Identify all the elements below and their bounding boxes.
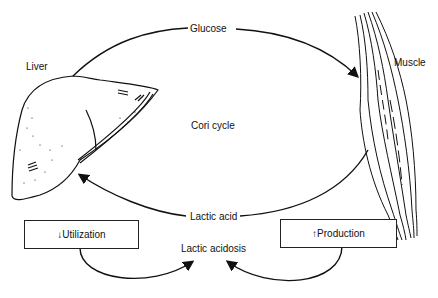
liver-stipple [19, 107, 135, 183]
glucose-label: Glucose [190, 24, 227, 34]
production-label: ↑Production [312, 228, 365, 239]
liver-label: Liver [26, 62, 48, 72]
lactic-acid-label: Lactic acid [190, 212, 237, 222]
utilization-label: ↓Utilization [57, 229, 105, 240]
liver-illustration [12, 76, 158, 200]
muscle-label: Muscle [394, 58, 426, 68]
utilization-arrow [80, 248, 192, 278]
production-box: ↑Production [280, 219, 397, 248]
lactic-acid-arrow [80, 150, 368, 216]
lactic-acidosis-label: Lactic acidosis [181, 244, 246, 254]
cori-cycle-label: Cori cycle [191, 121, 235, 131]
muscle-illustration [355, 12, 417, 240]
glucose-arrow [73, 28, 357, 76]
utilization-box: ↓Utilization [24, 220, 139, 249]
